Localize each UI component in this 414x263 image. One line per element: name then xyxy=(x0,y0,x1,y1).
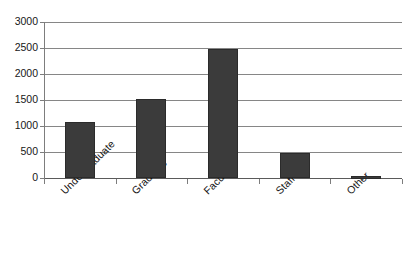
y-tick-mark xyxy=(40,74,44,75)
y-tick-mark xyxy=(40,48,44,49)
y-tick-mark xyxy=(40,126,44,127)
y-tick-mark xyxy=(40,178,44,179)
y-tick-label: 2000 xyxy=(0,67,38,79)
y-tick-label: 500 xyxy=(0,145,38,157)
x-tick-mark xyxy=(116,179,117,184)
bar-undergraduate xyxy=(65,122,95,178)
x-tick-mark xyxy=(187,179,188,184)
y-tick-label: 1500 xyxy=(0,93,38,105)
x-tick-mark xyxy=(44,179,45,184)
bar-faculty xyxy=(208,49,238,178)
x-tick-mark xyxy=(259,179,260,184)
y-axis-line xyxy=(44,22,45,179)
bar-graduate xyxy=(136,99,166,178)
bar-chart: UndergraduateGraduateFacultyStaffOther 0… xyxy=(0,0,414,263)
y-tick-label: 0 xyxy=(0,171,38,183)
x-tick-mark xyxy=(330,179,331,184)
y-tick-mark xyxy=(40,22,44,23)
y-tick-mark xyxy=(40,100,44,101)
y-tick-label: 2500 xyxy=(0,41,38,53)
y-tick-label: 3000 xyxy=(0,15,38,27)
y-tick-mark xyxy=(40,152,44,153)
gridline xyxy=(44,22,402,23)
bar-staff xyxy=(280,153,310,178)
bar-other xyxy=(351,176,381,179)
x-tick-mark xyxy=(402,179,403,184)
y-tick-label: 1000 xyxy=(0,119,38,131)
